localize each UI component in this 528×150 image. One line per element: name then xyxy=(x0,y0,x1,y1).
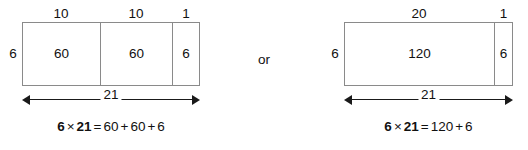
dimension-bar-left xyxy=(350,99,428,100)
left-model-top-label-2: 10 xyxy=(100,7,172,21)
left-model-rectangle: 60 60 6 xyxy=(22,22,200,86)
right-eq-equals: = xyxy=(419,119,431,134)
left-eq-times-icon: × xyxy=(65,119,77,134)
left-model-cell-2: 60 xyxy=(101,47,172,61)
dimension-bar-right xyxy=(111,99,194,100)
left-model-top-label-1: 10 xyxy=(22,7,100,21)
left-model-width-label: 21 xyxy=(100,89,121,100)
right-model-width-dimension: 21 xyxy=(344,94,513,105)
right-model-equation: 6×21=120+6 xyxy=(344,119,513,134)
right-eq-times-icon: × xyxy=(392,119,404,134)
dimension-bar-right xyxy=(429,99,507,100)
left-eq-factor1: 6 xyxy=(57,119,65,134)
left-eq-term-2: 60 xyxy=(130,119,145,134)
right-model-width-label: 21 xyxy=(418,89,439,100)
left-eq-plus-1: + xyxy=(119,119,131,134)
right-model-top-label-1: 20 xyxy=(344,7,494,21)
right-model-side-label: 6 xyxy=(328,47,342,61)
right-eq-plus-1: + xyxy=(453,119,465,134)
right-eq-factor2: 21 xyxy=(404,119,419,134)
right-eq-term-2: 6 xyxy=(465,119,473,134)
right-eq-factor1: 6 xyxy=(384,119,392,134)
right-model-cell-2: 6 xyxy=(495,47,512,61)
left-eq-term-3: 6 xyxy=(157,119,165,134)
right-eq-term-1: 120 xyxy=(431,119,454,134)
left-model-equation: 6×21=60+60+6 xyxy=(22,119,200,134)
left-model-cell-3: 6 xyxy=(173,47,199,61)
left-model-top-label-3: 1 xyxy=(172,7,200,21)
left-model-cell-1: 60 xyxy=(23,47,100,61)
right-model-cell-1: 120 xyxy=(345,47,494,61)
left-eq-equals: = xyxy=(92,119,104,134)
dimension-bar-left xyxy=(28,99,111,100)
right-model-top-label-2: 1 xyxy=(494,7,513,21)
left-model-side-label: 6 xyxy=(6,47,20,61)
left-eq-plus-2: + xyxy=(145,119,157,134)
left-model-width-dimension: 21 xyxy=(22,94,200,105)
connector-or: or xyxy=(252,52,276,67)
right-model-rectangle: 120 6 xyxy=(344,22,513,86)
left-eq-term-1: 60 xyxy=(103,119,118,134)
left-eq-factor2: 21 xyxy=(77,119,92,134)
area-model-figure: 10 10 1 6 60 60 6 21 6×21=60+60+6 or 20 … xyxy=(0,0,528,150)
